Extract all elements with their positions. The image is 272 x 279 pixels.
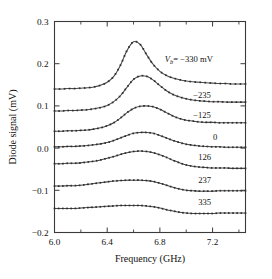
- data-marker: [223, 167, 225, 169]
- y-axis-title: Diode signal (mV): [7, 90, 19, 165]
- data-marker: [116, 138, 118, 140]
- data-marker: [240, 212, 242, 214]
- data-marker: [58, 208, 60, 210]
- data-marker: [146, 151, 148, 153]
- data-marker: [211, 190, 213, 192]
- data-marker: [74, 88, 76, 90]
- data-marker: [93, 128, 95, 130]
- data-marker: [72, 110, 74, 112]
- data-marker: [235, 83, 237, 85]
- y-tick-label: 0.0: [37, 144, 49, 154]
- data-marker: [215, 146, 217, 148]
- data-marker: [79, 162, 81, 164]
- data-marker: [211, 167, 213, 169]
- data-marker: [129, 205, 131, 207]
- data-marker: [54, 146, 56, 148]
- data-marker: [224, 212, 226, 214]
- data-marker: [220, 212, 222, 214]
- data-marker: [104, 158, 106, 160]
- data-marker: [136, 132, 138, 134]
- data-marker: [100, 143, 102, 145]
- data-marker: [58, 185, 60, 187]
- data-marker: [184, 80, 186, 82]
- data-marker: [164, 111, 166, 113]
- data-marker: [199, 190, 201, 192]
- data-marker: [71, 162, 73, 164]
- data-marker: [165, 137, 167, 139]
- data-marker: [199, 81, 201, 83]
- data-marker: [88, 129, 90, 131]
- data-marker: [232, 168, 234, 170]
- data-marker: [236, 212, 238, 214]
- data-marker: [202, 167, 204, 169]
- data-marker: [181, 142, 183, 144]
- data-marker: [185, 143, 187, 145]
- data-marker: [79, 87, 81, 89]
- data-marker: [122, 60, 124, 62]
- data-marker: [120, 205, 122, 207]
- data-marker: [245, 212, 247, 214]
- data-marker: [214, 82, 216, 84]
- data-marker: [100, 182, 102, 184]
- data-marker: [223, 122, 225, 124]
- data-marker: [124, 55, 126, 57]
- data-marker: [95, 206, 97, 208]
- data-marker: [231, 101, 233, 103]
- data-marker: [223, 146, 225, 148]
- data-marker: [209, 82, 211, 84]
- data-marker: [181, 163, 183, 165]
- data-marker: [112, 77, 114, 79]
- data-marker: [71, 130, 73, 132]
- data-marker: [204, 82, 206, 84]
- data-marker: [219, 83, 221, 85]
- data-marker: [108, 205, 110, 207]
- data-marker: [158, 182, 160, 184]
- data-marker: [81, 109, 83, 111]
- diode-signal-vs-frequency-chart: Vb= −330 mV−235−1250126237335 6.06.46.87…: [0, 0, 272, 279]
- data-marker: [150, 61, 152, 63]
- data-marker: [215, 190, 217, 192]
- data-marker: [128, 134, 130, 136]
- series-label-bias: 0: [213, 132, 217, 142]
- data-marker: [137, 205, 139, 207]
- data-marker: [178, 188, 180, 190]
- data-marker: [101, 127, 103, 129]
- data-marker: [112, 102, 114, 104]
- data-marker: [178, 211, 180, 213]
- data-marker: [176, 117, 178, 119]
- data-marker: [182, 189, 184, 191]
- data-marker: [69, 88, 71, 90]
- data-marker: [161, 72, 163, 74]
- data-marker: [207, 213, 209, 215]
- data-marker: [77, 110, 79, 112]
- data-marker: [75, 185, 77, 187]
- series-label-bias: Vb= −330 mV: [165, 54, 214, 65]
- data-marker: [112, 140, 114, 142]
- data-marker: [236, 101, 238, 103]
- data-marker: [124, 135, 126, 137]
- series-labels: Vb= −330 mV−235−1250126237335: [165, 54, 218, 207]
- data-marker: [149, 205, 151, 207]
- data-marker: [84, 129, 86, 131]
- curve-126: [55, 151, 246, 168]
- data-marker: [99, 206, 101, 208]
- data-marker: [170, 210, 172, 212]
- data-marker: [108, 141, 110, 143]
- data-marker: [108, 181, 110, 183]
- data-marker: [87, 207, 89, 209]
- data-marker: [70, 208, 72, 210]
- data-marker: [58, 163, 60, 165]
- data-marker: [210, 121, 212, 123]
- data-marker: [128, 46, 130, 48]
- data-marker: [207, 190, 209, 192]
- data-marker: [104, 142, 106, 144]
- data-marker: [240, 101, 242, 103]
- data-marker: [136, 41, 138, 43]
- data-marker: [96, 144, 98, 146]
- data-marker: [173, 140, 175, 142]
- data-marker: [120, 180, 122, 182]
- data-marker: [172, 115, 174, 117]
- data-marker: [130, 81, 132, 83]
- data-marker: [54, 88, 56, 90]
- data-marker: [108, 104, 110, 106]
